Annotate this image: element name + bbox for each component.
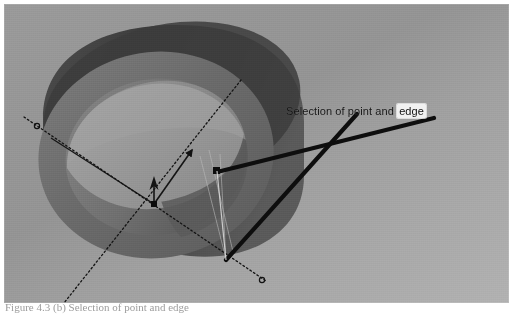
cad-viewport[interactable]: Selection of point and edge: [4, 4, 509, 303]
axis-endpoint-marker-a1: [34, 123, 39, 128]
selected-point-marker[interactable]: [151, 201, 157, 207]
figure-caption: Figure 4.3 (b) Selection of point and ed…: [5, 303, 189, 313]
callout-prefix-text: Selection of point and: [286, 105, 394, 117]
figure-root: Selection of point and edge Figure 4.3 (…: [0, 0, 513, 315]
callout-selected-token[interactable]: edge: [397, 104, 426, 118]
model-geometry: [4, 4, 509, 303]
figure-caption-strip: Figure 4.3 (b) Selection of point and ed…: [0, 303, 513, 315]
callout-label: Selection of point and edge: [286, 105, 426, 118]
